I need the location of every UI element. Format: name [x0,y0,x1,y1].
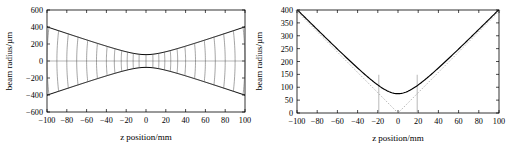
y-tick-label: 200 [281,58,293,67]
x-tick-label: −80 [60,116,73,125]
y-tick-label: −400 [26,91,43,100]
right-plot-svg: −100−80−60−40−20020406080100 05010015020… [254,0,508,152]
y-tick-label: 200 [31,40,43,49]
beam-propagation-figure: −100−80−60−40−20020406080100 −600−400−20… [0,0,508,152]
y-tick-label: 300 [281,32,293,41]
right-y-axis-label: beam radius/µm [254,32,264,90]
left-y-axis-ticks: −600−400−2000200400600 [26,6,245,117]
y-tick-label: 0 [289,109,293,118]
far-field-asymptote [296,10,501,113]
y-tick-label: −600 [26,108,43,117]
x-tick-label: −60 [80,116,93,125]
left-x-axis-label: z position/mm [120,132,172,142]
x-tick-label: 100 [493,117,505,126]
plot-border [297,10,499,113]
right-plot-frame [297,10,499,113]
x-tick-label: −60 [331,117,344,126]
x-tick-label: 80 [221,116,229,125]
x-tick-label: 40 [434,117,442,126]
y-tick-label: 350 [281,19,293,28]
left-y-axis-label: beam radius/µm [4,32,14,90]
left-plot-svg: −100−80−60−40−20020406080100 −600−400−20… [0,0,254,152]
x-tick-label: 100 [239,116,251,125]
y-tick-label: 600 [31,6,43,15]
right-x-axis-label: z position/mm [372,133,424,143]
y-tick-label: 50 [285,96,293,105]
chart-panel-right: −100−80−60−40−20020406080100 05010015020… [254,0,508,152]
y-tick-label: 100 [281,83,293,92]
x-tick-label: −40 [351,117,364,126]
x-tick-label: 0 [396,117,400,126]
x-tick-label: 60 [201,116,209,125]
x-tick-label: −20 [120,116,133,125]
y-tick-label: 400 [281,6,293,15]
y-tick-label: 150 [281,70,293,79]
y-tick-label: 400 [31,23,43,32]
x-tick-label: −40 [100,116,113,125]
x-tick-label: −20 [371,117,384,126]
x-tick-label: 0 [144,116,148,125]
x-tick-label: 80 [475,117,483,126]
right-plot-content [296,10,501,113]
y-tick-label: −200 [26,74,43,83]
x-tick-label: 20 [162,116,170,125]
right-y-axis-ticks: 050100150200250300350400 [281,6,499,118]
x-tick-label: −80 [311,117,324,126]
x-tick-label: 20 [414,117,422,126]
x-tick-label: 60 [455,117,463,126]
x-tick-label: −100 [39,116,56,125]
x-tick-label: −100 [289,117,306,126]
chart-panel-left: −100−80−60−40−20020406080100 −600−400−20… [0,0,254,152]
y-tick-label: 250 [281,45,293,54]
x-tick-label: 40 [182,116,190,125]
y-tick-label: 0 [39,57,43,66]
beam-radius-curve [298,10,498,94]
right-x-axis-ticks: −100−80−60−40−20020406080100 [289,10,506,126]
left-plot-content [47,27,245,95]
